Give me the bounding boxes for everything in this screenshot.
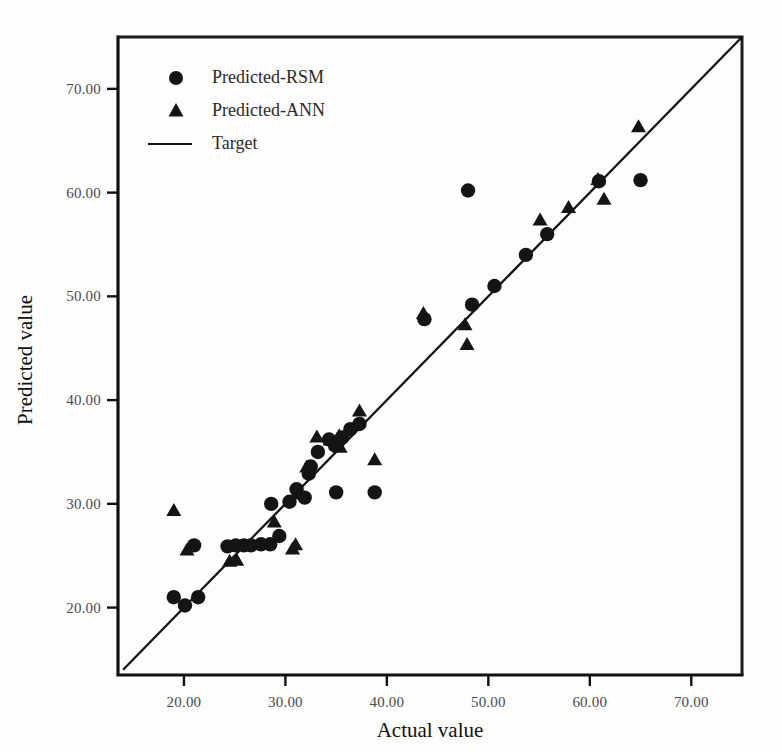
data-point-circle bbox=[272, 529, 286, 543]
y-tick-label: 40.00 bbox=[66, 392, 101, 408]
data-series-markers bbox=[166, 119, 647, 613]
x-tick-label: 40.00 bbox=[370, 694, 405, 710]
data-point-circle bbox=[329, 485, 343, 499]
data-point-circle bbox=[465, 297, 479, 311]
data-point-circle bbox=[264, 497, 278, 511]
data-point-triangle bbox=[460, 337, 475, 350]
series-ann bbox=[166, 119, 646, 567]
data-point-circle bbox=[368, 485, 382, 499]
series-rsm bbox=[167, 173, 648, 613]
plot-area: 20.0030.0040.0050.0060.0070.0020.0030.00… bbox=[0, 0, 782, 752]
x-tick-label: 70.00 bbox=[674, 694, 709, 710]
data-point-triangle bbox=[367, 452, 382, 465]
x-tick-label: 60.00 bbox=[572, 694, 607, 710]
y-axis-title: Predicted value bbox=[13, 295, 37, 425]
data-point-circle bbox=[487, 279, 501, 293]
data-point-circle bbox=[311, 445, 325, 459]
data-point-circle bbox=[178, 598, 192, 612]
data-point-circle bbox=[461, 183, 475, 197]
x-axis-title: Actual value bbox=[377, 718, 484, 742]
data-point-circle bbox=[352, 417, 366, 431]
x-tick-label: 50.00 bbox=[471, 694, 506, 710]
legend-label-2: Predicted-ANN bbox=[212, 100, 325, 120]
data-point-circle bbox=[633, 173, 647, 187]
legend-label-1: Predicted-RSM bbox=[212, 67, 324, 87]
x-tick-label: 20.00 bbox=[167, 694, 202, 710]
data-point-circle bbox=[191, 590, 205, 604]
data-point-triangle bbox=[352, 403, 367, 416]
legend-marker-circle bbox=[169, 71, 183, 85]
data-point-triangle bbox=[533, 213, 548, 226]
data-point-triangle bbox=[631, 119, 646, 132]
target-reference-line bbox=[123, 37, 742, 670]
scatter-chart: 20.0030.0040.0050.0060.0070.0020.0030.00… bbox=[0, 0, 782, 752]
data-point-triangle bbox=[416, 306, 431, 319]
chart-legend: Predicted-RSMPredicted-ANNTarget bbox=[148, 67, 325, 153]
data-point-triangle bbox=[561, 200, 576, 213]
axis-tick-labels: 20.0030.0040.0050.0060.0070.0020.0030.00… bbox=[66, 81, 708, 710]
x-tick-label: 30.00 bbox=[268, 694, 303, 710]
y-tick-label: 60.00 bbox=[66, 185, 101, 201]
y-tick-label: 20.00 bbox=[66, 600, 101, 616]
target-line bbox=[123, 37, 742, 670]
data-point-circle bbox=[519, 248, 533, 262]
data-point-triangle bbox=[458, 317, 473, 330]
data-point-triangle bbox=[288, 537, 303, 550]
data-point-triangle bbox=[309, 429, 324, 442]
y-tick-label: 70.00 bbox=[66, 81, 101, 97]
y-tick-label: 30.00 bbox=[66, 496, 101, 512]
legend-marker-triangle bbox=[169, 103, 184, 117]
legend-label-3: Target bbox=[212, 133, 257, 153]
data-point-triangle bbox=[597, 192, 612, 205]
data-point-circle bbox=[540, 227, 554, 241]
y-tick-label: 50.00 bbox=[66, 288, 101, 304]
data-point-triangle bbox=[166, 503, 181, 516]
